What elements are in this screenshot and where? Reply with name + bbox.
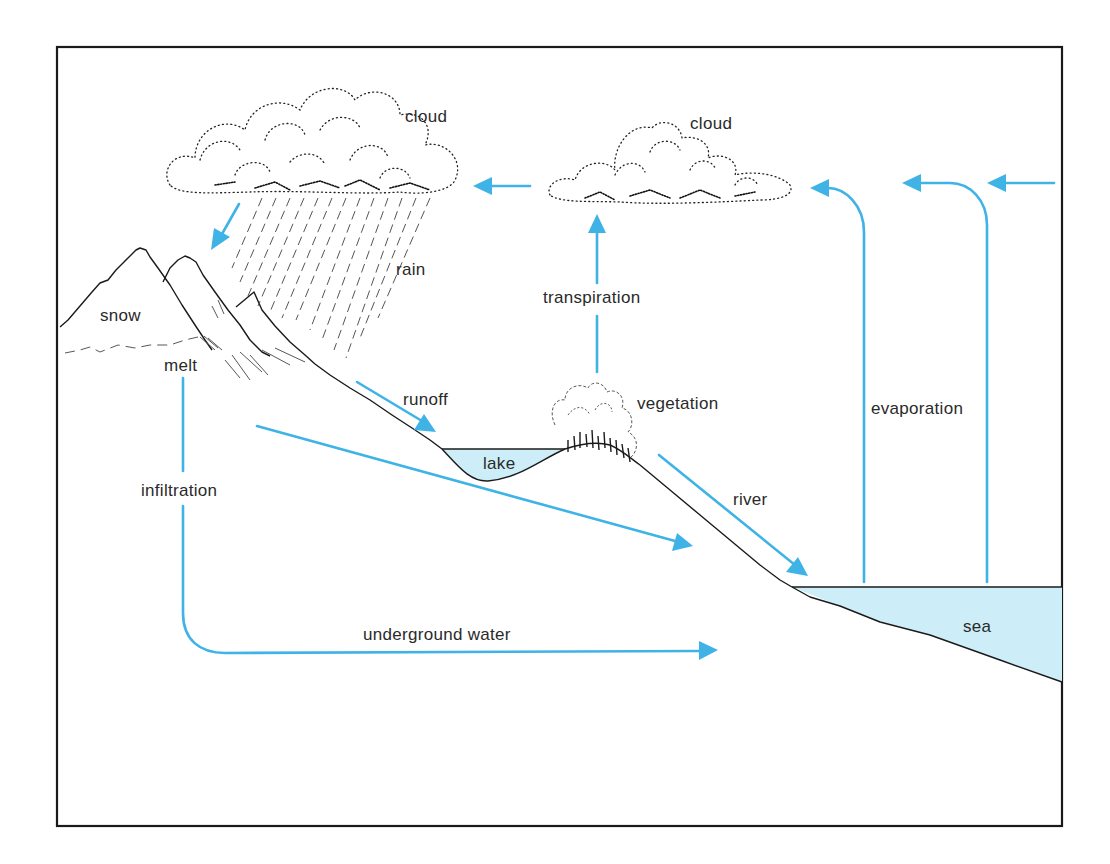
river-label: river <box>733 490 768 509</box>
infiltration-label: infiltration <box>141 481 217 500</box>
melt-label: melt <box>164 356 197 375</box>
vegetation-label: vegetation <box>637 394 718 413</box>
evaporation-label: evaporation <box>871 399 963 418</box>
water-cycle-diagram: cloud rain cloud vegetation snow melt ru… <box>0 0 1110 864</box>
cloud-left-label: cloud <box>405 107 447 126</box>
snow-label: snow <box>100 306 141 325</box>
lake-label: lake <box>483 454 515 473</box>
underground-water-label: underground water <box>363 625 511 644</box>
rain-label: rain <box>396 260 426 279</box>
cloud-right-label: cloud <box>690 114 732 133</box>
runoff-label: runoff <box>403 390 448 409</box>
sea-label: sea <box>963 617 992 636</box>
transpiration-label: transpiration <box>543 288 640 307</box>
diagram-frame <box>57 47 1062 826</box>
